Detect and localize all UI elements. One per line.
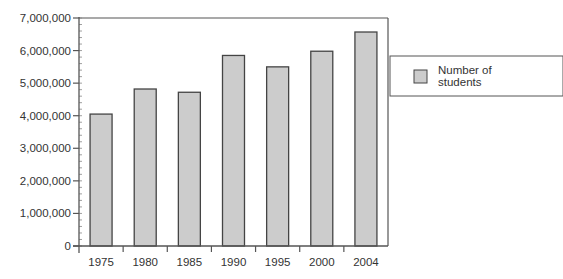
legend-label-line1: Number of — [438, 64, 492, 76]
x-tick-label: 2004 — [353, 256, 379, 268]
y-tick-label: 6,000,000 — [20, 45, 71, 57]
bar-1995 — [267, 67, 289, 246]
y-tick-label: 7,000,000 — [20, 12, 71, 24]
bar-2000 — [311, 51, 333, 246]
bar-2004 — [355, 32, 377, 246]
x-tick-label: 1995 — [265, 256, 291, 268]
x-tick-label: 1990 — [221, 256, 247, 268]
bar-1985 — [178, 92, 200, 246]
y-tick-label: 5,000,000 — [20, 77, 71, 89]
y-tick-label: 2,000,000 — [20, 175, 71, 187]
legend: Number of students — [390, 56, 563, 96]
legend-swatch — [414, 70, 427, 83]
x-tick-label: 2000 — [309, 256, 335, 268]
x-tick-label: 1980 — [132, 256, 158, 268]
bar-1990 — [223, 55, 245, 246]
x-tick-label: 1975 — [88, 256, 114, 268]
y-tick-label: 4,000,000 — [20, 110, 71, 122]
y-tick-label: 1,000,000 — [20, 207, 71, 219]
bar-1975 — [90, 114, 112, 246]
y-tick-label: 0 — [65, 240, 71, 252]
bar-1980 — [134, 89, 156, 246]
plot-area: 01,000,0002,000,0003,000,0004,000,0005,0… — [20, 12, 388, 268]
x-tick-label: 1985 — [177, 256, 203, 268]
legend-label-line2: students — [438, 76, 482, 88]
bar-chart: 01,000,0002,000,0003,000,0004,000,0005,0… — [0, 0, 563, 279]
y-tick-label: 3,000,000 — [20, 142, 71, 154]
